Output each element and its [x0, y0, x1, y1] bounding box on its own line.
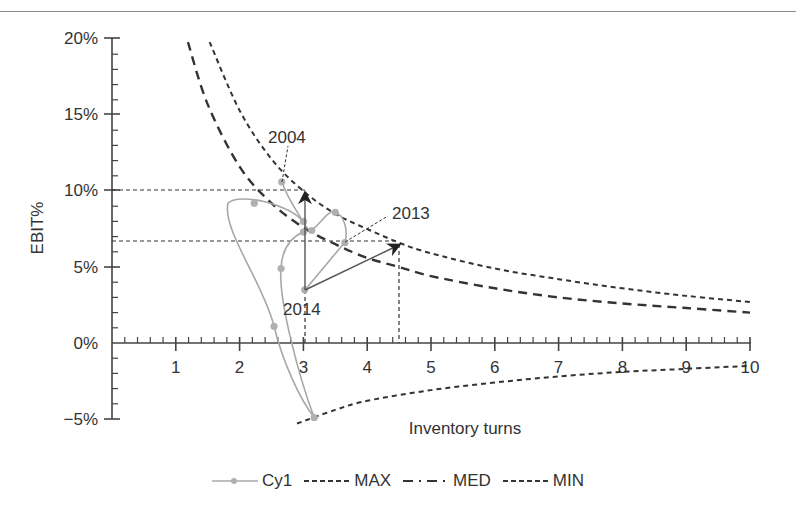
x-tick-label: 5 [426, 358, 435, 377]
legend-label: MED [453, 471, 491, 491]
x-axis: 12345678910 Inventory turns [112, 337, 759, 438]
cy1-data-point [270, 323, 277, 330]
legend-item-max: MAX [304, 471, 391, 491]
short-dash-line-icon [503, 474, 549, 488]
y-tick-label: −5% [64, 410, 99, 429]
legend-label: MIN [553, 471, 584, 491]
y-tick-label: 0% [73, 334, 98, 353]
cy1-data-point [332, 209, 339, 216]
legend-item-med: MED [403, 471, 491, 491]
x-tick-label: 9 [681, 358, 690, 377]
annotation-2004: 2004 [268, 128, 306, 147]
legend-label: MAX [354, 471, 391, 491]
legend-item-min: MIN [503, 471, 584, 491]
cy1-line-icon [212, 474, 258, 488]
long-dash-line-icon [403, 474, 449, 488]
cy1-data-point [300, 228, 307, 235]
y-axis: 20% 15% 10% 5% 0% −5% EBIT% [28, 29, 120, 429]
y-tick-label: 10% [64, 181, 98, 200]
y-axis-title: EBIT% [28, 202, 47, 255]
x-tick-label: 10 [741, 358, 760, 377]
x-axis-title: Inventory turns [409, 419, 521, 438]
max-curve [210, 42, 750, 302]
y-tick-label: 15% [64, 105, 98, 124]
reference-lines [112, 190, 399, 343]
legend-item-cy1: Cy1 [212, 471, 292, 491]
x-tick-label: 2 [235, 358, 244, 377]
x-tick-label: 8 [618, 358, 627, 377]
chart-canvas: 20% 15% 10% 5% 0% −5% EBIT% 12345678910 … [0, 0, 796, 470]
label-leaders [282, 146, 388, 242]
cy1-data-point [251, 200, 258, 207]
short-dash-line-icon [304, 474, 350, 488]
x-tick-label: 6 [490, 358, 499, 377]
cy1-data-point [300, 218, 307, 225]
cy1-data-point [277, 265, 284, 272]
annotation-2014: 2014 [283, 300, 321, 319]
cy1-data-point [311, 414, 318, 421]
med-curve [188, 42, 750, 313]
y-tick-label: 20% [64, 29, 98, 48]
legend-label: Cy1 [262, 471, 292, 491]
chart-legend: Cy1 MAX MED MIN [0, 470, 796, 492]
annotation-2013: 2013 [392, 204, 430, 223]
x-tick-label: 7 [554, 358, 563, 377]
cy1-data-point [308, 227, 315, 234]
x-tick-label: 4 [362, 358, 371, 377]
y-tick-label: 5% [73, 258, 98, 277]
x-tick-label: 1 [171, 358, 180, 377]
